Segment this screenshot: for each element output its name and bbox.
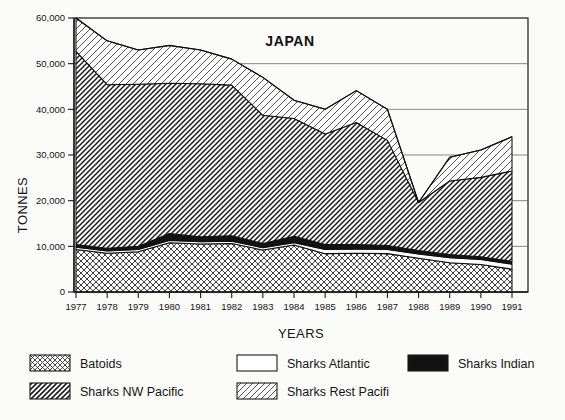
y-tick-label: 10,000 bbox=[36, 241, 65, 252]
legend-item-sharks-indian[interactable]: Sharks Indian bbox=[408, 355, 534, 371]
legend-swatch bbox=[30, 355, 70, 371]
y-tick-label: 30,000 bbox=[36, 149, 65, 160]
legend-item-sharks-atlantic[interactable]: Sharks Atlantic bbox=[237, 355, 370, 371]
x-tick-label: 1977 bbox=[65, 301, 86, 312]
y-tick-label: 40,000 bbox=[36, 104, 65, 115]
x-tick-label: 1989 bbox=[439, 301, 460, 312]
legend-swatch bbox=[237, 383, 277, 399]
x-tick-label: 1984 bbox=[283, 301, 304, 312]
x-tick-label: 1978 bbox=[97, 301, 118, 312]
x-tick-label: 1983 bbox=[252, 301, 273, 312]
y-tick-label: 20,000 bbox=[36, 195, 65, 206]
legend-label: Sharks Rest Pacifi bbox=[287, 385, 389, 399]
x-tick-label: 1982 bbox=[221, 301, 242, 312]
legend-swatch bbox=[30, 383, 70, 399]
legend-label: Sharks Indian bbox=[458, 357, 534, 371]
y-tick-label: 50,000 bbox=[36, 58, 65, 69]
x-tick-label: 1979 bbox=[128, 301, 149, 312]
x-tick-label: 1988 bbox=[408, 301, 429, 312]
legend-item-sharks-nw-pacific[interactable]: Sharks NW Pacific bbox=[30, 383, 184, 399]
x-tick-label: 1990 bbox=[470, 301, 491, 312]
y-tick-label: 0 bbox=[60, 286, 65, 297]
chart-title: JAPAN bbox=[265, 33, 314, 49]
y-tick-label: 60,000 bbox=[36, 12, 65, 23]
legend-label: Batoids bbox=[80, 357, 122, 371]
legend-swatch bbox=[237, 355, 277, 371]
x-tick-label: 1986 bbox=[346, 301, 367, 312]
y-axis-title: TONNES bbox=[15, 177, 30, 233]
x-tick-label: 1980 bbox=[159, 301, 180, 312]
x-tick-label: 1987 bbox=[377, 301, 398, 312]
legend-swatch bbox=[408, 355, 448, 371]
x-tick-label: 1985 bbox=[315, 301, 336, 312]
legend-label: Sharks Atlantic bbox=[287, 357, 370, 371]
legend-item-sharks-rest-pacifi[interactable]: Sharks Rest Pacifi bbox=[237, 383, 389, 399]
chart-page: 010,00020,00030,00040,00050,00060,000 19… bbox=[0, 0, 565, 420]
x-tick-label: 1981 bbox=[190, 301, 211, 312]
x-axis-title: YEARS bbox=[278, 326, 324, 341]
stacked-area-chart: 010,00020,00030,00040,00050,00060,000 19… bbox=[0, 0, 565, 420]
legend-label: Sharks NW Pacific bbox=[80, 385, 184, 399]
x-tick-label: 1991 bbox=[501, 301, 522, 312]
